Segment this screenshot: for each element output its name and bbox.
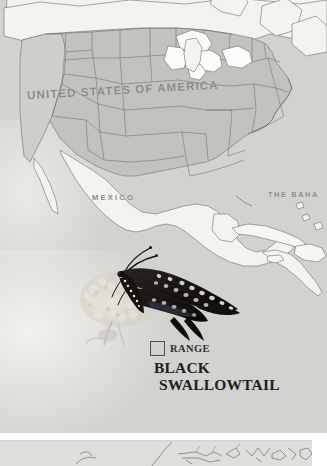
map-label-bahamas: THE BAHA <box>268 190 319 199</box>
next-page-map-outlines <box>0 440 327 466</box>
next-page-right-margin <box>312 440 327 466</box>
black-swallowtail-butterfly-photo <box>78 243 248 348</box>
species-title-line1: BLACK <box>154 360 280 377</box>
square-swatch-icon <box>150 341 165 356</box>
guide-page-spread: .land{fill:#f3f3ef;stroke:#6f6f6b;stroke… <box>0 0 327 466</box>
legend-range-row: RANGE <box>150 341 280 356</box>
range-map-plate: .land{fill:#f3f3ef;stroke:#6f6f6b;stroke… <box>0 0 327 433</box>
next-page-sliver <box>0 440 327 466</box>
species-title: BLACK SWALLOWTAIL <box>150 360 280 393</box>
legend-range-label: RANGE <box>170 343 210 354</box>
species-title-line2: SWALLOWTAIL <box>159 377 280 394</box>
map-legend: RANGE BLACK SWALLOWTAIL <box>150 341 280 393</box>
page-gutter <box>0 433 327 440</box>
map-label-mexico: MEXICO <box>92 193 135 202</box>
